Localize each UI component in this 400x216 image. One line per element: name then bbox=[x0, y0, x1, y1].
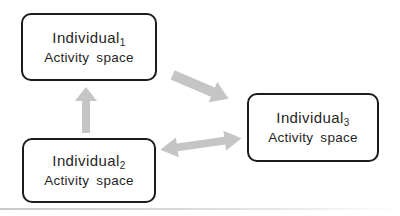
activity-space-diagram: Individual1 Activity space Individual2 A… bbox=[0, 0, 400, 216]
up-block-arrow-icon bbox=[74, 86, 98, 134]
double-headed-block-arrow-icon bbox=[158, 125, 245, 162]
node-individual-2: Individual2 Activity space bbox=[22, 138, 156, 203]
node-individual-1-title: Individual1 bbox=[52, 30, 125, 45]
node-individual-3-subscript: 3 bbox=[344, 117, 350, 128]
up-block-arrow-shape bbox=[75, 87, 97, 133]
node-individual-1: Individual1 Activity space bbox=[21, 13, 157, 81]
node-individual-2-title: Individual2 bbox=[52, 153, 125, 168]
node-individual-2-subtitle: Activity space bbox=[44, 174, 134, 188]
bottom-scan-line bbox=[0, 208, 400, 210]
diagonal-block-arrow-shape bbox=[168, 65, 233, 109]
node-individual-3-subtitle: Activity space bbox=[268, 131, 358, 145]
diagonal-block-arrow-icon bbox=[168, 64, 234, 110]
node-individual-1-subscript: 1 bbox=[120, 37, 126, 48]
node-individual-3: Individual3 Activity space bbox=[247, 93, 379, 162]
node-individual-1-subtitle: Activity space bbox=[44, 51, 134, 65]
double-headed-block-arrow-shape bbox=[159, 128, 243, 159]
node-individual-2-subscript: 2 bbox=[120, 160, 126, 171]
node-individual-3-title: Individual3 bbox=[276, 110, 349, 125]
